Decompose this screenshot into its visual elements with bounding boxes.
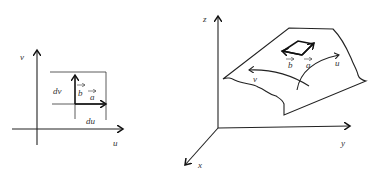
vector-b-arrow-3d bbox=[282, 51, 302, 55]
dv-label: dv bbox=[53, 86, 62, 96]
u-curve-label: u bbox=[335, 58, 340, 68]
a-vector-label-3d: a bbox=[306, 60, 311, 70]
v-curve-arrow bbox=[249, 70, 309, 86]
vector-a-arrow-3d bbox=[302, 43, 314, 55]
y-axis bbox=[218, 126, 350, 128]
v-axis-label: v bbox=[20, 52, 24, 62]
parameter-plane-figure: v u dv du b a bbox=[12, 50, 123, 148]
u-axis-label: u bbox=[113, 138, 118, 148]
z-axis-label: z bbox=[202, 14, 207, 24]
b-vector-label-3d: b bbox=[288, 60, 293, 70]
y-axis-label: y bbox=[340, 138, 345, 148]
du-label: du bbox=[86, 116, 96, 126]
surface-3d-figure: z y x v u b a bbox=[185, 14, 366, 170]
diagram-canvas: v u dv du b a z y x v u b a bbox=[0, 0, 378, 179]
v-curve-label: v bbox=[253, 74, 257, 84]
x-axis-label: x bbox=[197, 160, 202, 170]
a-vector-label: a bbox=[90, 92, 95, 102]
u-curve-arrow bbox=[297, 55, 339, 90]
surface-patch bbox=[223, 28, 366, 115]
b-vector-label: b bbox=[78, 88, 83, 98]
